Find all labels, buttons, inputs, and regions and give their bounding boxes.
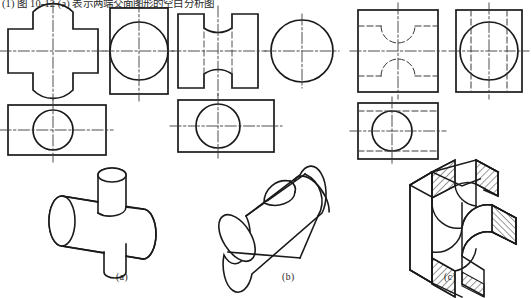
- group-c-left-view: [449, 3, 529, 99]
- center-lines: [0, 2, 106, 100]
- group-a-solid: [49, 168, 156, 278]
- group-a-left-view: [103, 1, 176, 101]
- group-a-top-view: [0, 98, 113, 162]
- group-label-c: (c): [444, 272, 456, 282]
- group-a-front-view: [0, 2, 106, 100]
- group-label-b: (b): [282, 272, 295, 282]
- group-b-left-view: [265, 14, 339, 88]
- group-c-front-view: [350, 3, 446, 99]
- group-label-a: (a): [116, 272, 128, 282]
- group-c-top-view: [350, 97, 446, 165]
- group-c-solid: [410, 160, 516, 297]
- group-b-front-view: [170, 6, 266, 96]
- group-b-solid: [211, 166, 333, 292]
- group-b-top-view: [170, 94, 282, 158]
- drawing-canvas: [0, 0, 531, 298]
- drawing-sheet: [0, 0, 531, 298]
